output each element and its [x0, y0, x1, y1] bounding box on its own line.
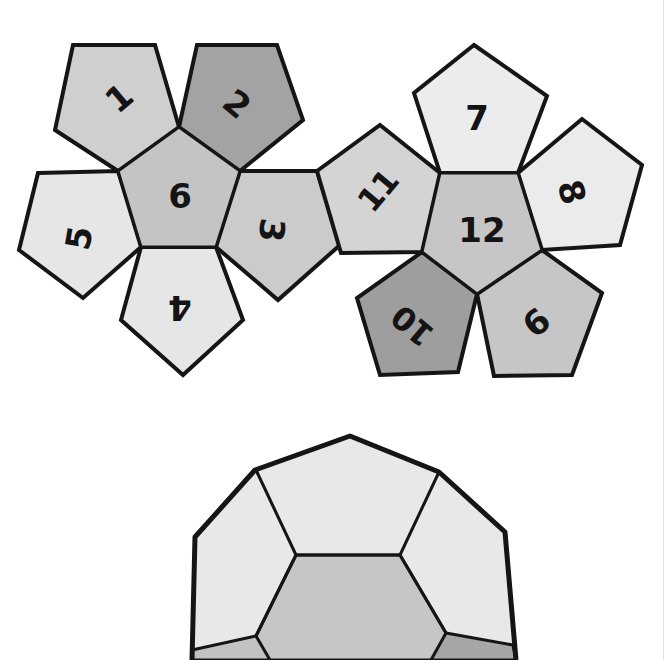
face-label-12: 12: [458, 210, 505, 250]
left-cluster: 1 2 5 3 4 6: [19, 45, 340, 375]
face-4: 4: [121, 247, 243, 375]
face-label-7: 7: [465, 98, 489, 138]
dodecahedron-solid-view: [192, 436, 516, 660]
face-7: 7: [414, 45, 547, 173]
face-label-3: 3: [251, 216, 293, 243]
face-label-6: 6: [168, 176, 192, 216]
right-cluster: 11 7 8 10 9 12: [317, 45, 642, 376]
face-11: 11: [317, 125, 440, 253]
face-label-4: 4: [168, 288, 192, 328]
dodecahedron-diagram: 1 2 5 3 4 6 11 7: [0, 0, 666, 660]
